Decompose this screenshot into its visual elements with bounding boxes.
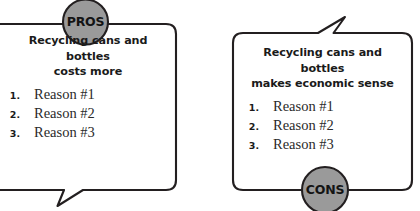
cons-heading-line2: makes economic sense — [240, 76, 405, 92]
diagram-canvas: Recycling cans and bottles costs more 1.… — [0, 0, 420, 211]
cons-heading: Recycling cans and bottles makes economi… — [233, 45, 412, 92]
cons-badge-circle — [302, 167, 348, 211]
cons-reason-label-2: Reason #2 — [259, 117, 334, 134]
pros-reason-label-2: Reason #2 — [20, 105, 95, 122]
cons-reason-list: 1. Reason #1 2. Reason #2 3. Reason #3 — [233, 98, 412, 155]
pros-reason-list: 1. Reason #1 2. Reason #2 3. Reason #3 — [0, 86, 176, 143]
cons-reason-number-3: 3. — [237, 140, 259, 151]
pros-heading: Recycling cans and bottles costs more — [0, 33, 176, 80]
pros-reason-number-3: 3. — [2, 128, 20, 139]
list-item: 3. Reason #3 — [233, 136, 412, 155]
list-item: 2. Reason #2 — [0, 105, 176, 124]
cons-heading-line1: Recycling cans and bottles — [263, 46, 382, 75]
cons-reason-label-3: Reason #3 — [259, 136, 334, 153]
list-item: 1. Reason #1 — [0, 86, 176, 105]
pros-reason-number-2: 2. — [2, 109, 20, 120]
cons-reason-number-1: 1. — [237, 102, 259, 113]
pros-reason-label-1: Reason #1 — [20, 86, 95, 103]
pros-heading-line1: Recycling cans and bottles — [29, 34, 148, 63]
cons-reason-label-1: Reason #1 — [259, 98, 334, 115]
pros-heading-line2: costs more — [7, 64, 169, 80]
cons-panel-content: Recycling cans and bottles makes economi… — [233, 45, 412, 155]
cons-reason-number-2: 2. — [237, 121, 259, 132]
list-item: 1. Reason #1 — [233, 98, 412, 117]
pros-reason-label-3: Reason #3 — [20, 124, 95, 141]
pros-panel-content: Recycling cans and bottles costs more 1.… — [0, 33, 176, 143]
list-item: 2. Reason #2 — [233, 117, 412, 136]
list-item: 3. Reason #3 — [0, 124, 176, 143]
pros-reason-number-1: 1. — [2, 90, 20, 101]
